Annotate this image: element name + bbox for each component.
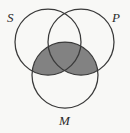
set-label-m: M <box>59 114 70 127</box>
venn-diagram-figure: S P M <box>0 0 130 133</box>
set-label-s: S <box>7 11 14 24</box>
set-label-p: P <box>112 11 120 24</box>
